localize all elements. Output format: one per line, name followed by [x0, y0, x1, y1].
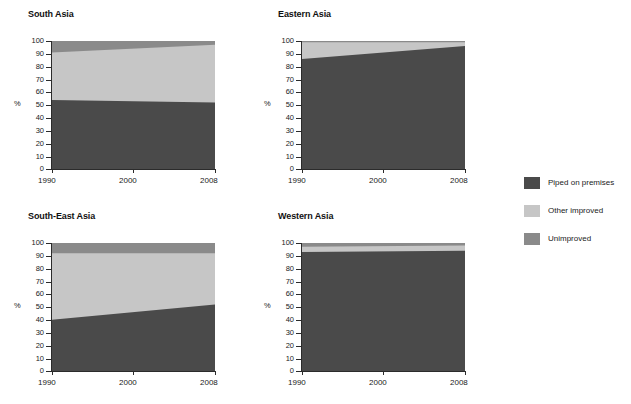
y-tick-south-asia	[46, 67, 51, 68]
y-tick-western-asia	[296, 256, 301, 257]
y-tick-label-western-asia: 90	[254, 251, 294, 260]
x-tick-western-asia	[302, 372, 303, 375]
stacked-area-plot-eastern-asia	[302, 41, 465, 169]
y-tick-label-western-asia: 60	[254, 289, 294, 298]
y-tick-label-south-asia: 10	[4, 152, 44, 161]
y-tick-south-asia	[46, 131, 51, 132]
y-tick-label-western-asia: 50	[254, 302, 294, 311]
y-tick-eastern-asia	[296, 92, 301, 93]
y-tick-south-asia	[46, 92, 51, 93]
y-tick-label-south-asia: 80	[4, 62, 44, 71]
x-tick-eastern-asia	[383, 170, 384, 173]
y-tick-eastern-asia	[296, 131, 301, 132]
y-tick-label-eastern-asia: 30	[254, 126, 294, 135]
legend-swatch-other-improved	[524, 205, 540, 217]
plot-area-south-east-asia	[52, 243, 215, 371]
y-axis-line-eastern-asia	[301, 41, 302, 170]
x-tick-eastern-asia	[465, 170, 466, 173]
y-tick-label-western-asia: 100	[254, 238, 294, 247]
x-tick-south-asia	[133, 170, 134, 173]
y-tick-south-east-asia	[46, 346, 51, 347]
y-tick-south-asia	[46, 157, 51, 158]
y-tick-label-south-asia: 100	[4, 36, 44, 45]
x-tick-label-eastern-asia: 2008	[450, 176, 468, 185]
x-tick-south-asia	[52, 170, 53, 173]
y-tick-south-east-asia	[46, 320, 51, 321]
y-tick-label-south-east-asia: 0	[4, 366, 44, 375]
stacked-area-plot-south-asia	[52, 41, 215, 169]
y-tick-label-south-asia: 90	[4, 49, 44, 58]
panel-title-south-asia: South Asia	[28, 9, 74, 19]
y-tick-label-south-east-asia: 90	[4, 251, 44, 260]
x-tick-label-south-east-asia: 1990	[38, 378, 56, 387]
stacked-area-plot-south-east-asia	[52, 243, 215, 371]
y-tick-south-asia	[46, 169, 51, 170]
legend-label-unimproved: Unimproved	[548, 233, 591, 245]
y-tick-south-asia	[46, 144, 51, 145]
y-tick-label-south-asia: 40	[4, 113, 44, 122]
y-tick-south-east-asia	[46, 269, 51, 270]
multi-panel-area-chart-figure: South Asia % 100 90 80 70 60 5	[0, 0, 631, 404]
y-tick-eastern-asia	[296, 105, 301, 106]
y-tick-label-south-east-asia: 40	[4, 315, 44, 324]
y-tick-label-eastern-asia: 90	[254, 49, 294, 58]
y-tick-label-south-east-asia: 80	[4, 264, 44, 273]
y-tick-south-asia	[46, 105, 51, 106]
area-series-svg-south-asia	[52, 41, 215, 169]
y-tick-label-eastern-asia: 70	[254, 75, 294, 84]
area-series-svg-eastern-asia	[302, 41, 465, 169]
y-tick-western-asia	[296, 359, 301, 360]
y-tick-label-south-asia: 60	[4, 87, 44, 96]
y-tick-eastern-asia	[296, 169, 301, 170]
y-tick-south-asia	[46, 41, 51, 42]
y-tick-western-asia	[296, 243, 301, 244]
y-tick-label-eastern-asia: 0	[254, 164, 294, 173]
y-tick-label-western-asia: 80	[254, 264, 294, 273]
y-tick-south-east-asia	[46, 359, 51, 360]
plot-area-eastern-asia	[302, 41, 465, 169]
y-tick-label-eastern-asia: 10	[254, 152, 294, 161]
x-tick-label-south-asia: 2000	[119, 176, 137, 185]
y-axis-line-south-asia	[51, 41, 52, 170]
y-tick-label-south-asia: 0	[4, 164, 44, 173]
y-tick-eastern-asia	[296, 144, 301, 145]
y-tick-label-eastern-asia: 60	[254, 87, 294, 96]
y-tick-label-eastern-asia: 50	[254, 100, 294, 109]
y-tick-western-asia	[296, 346, 301, 347]
x-tick-western-asia	[383, 372, 384, 375]
x-tick-western-asia	[465, 372, 466, 375]
y-tick-label-south-asia: 30	[4, 126, 44, 135]
y-tick-label-western-asia: 40	[254, 315, 294, 324]
legend-item-piped-on-premises: Piped on premises	[524, 175, 631, 203]
y-tick-label-western-asia: 70	[254, 277, 294, 286]
y-tick-eastern-asia	[296, 118, 301, 119]
y-tick-label-south-east-asia: 60	[4, 289, 44, 298]
y-tick-south-asia	[46, 54, 51, 55]
x-tick-label-south-asia: 1990	[38, 176, 56, 185]
y-tick-western-asia	[296, 294, 301, 295]
y-tick-south-asia	[46, 80, 51, 81]
x-tick-south-asia	[215, 170, 216, 173]
y-tick-label-western-asia: 30	[254, 328, 294, 337]
x-tick-label-western-asia: 2000	[369, 378, 387, 387]
y-tick-label-western-asia: 10	[254, 354, 294, 363]
y-tick-label-south-east-asia: 50	[4, 302, 44, 311]
legend-item-unimproved: Unimproved	[524, 231, 631, 259]
area-piped-on-premises-south-asia	[52, 100, 215, 169]
x-tick-eastern-asia	[302, 170, 303, 173]
plot-area-south-asia	[52, 41, 215, 169]
stacked-area-plot-western-asia	[302, 243, 465, 371]
x-tick-label-western-asia: 2008	[450, 378, 468, 387]
y-tick-eastern-asia	[296, 41, 301, 42]
x-tick-label-eastern-asia: 1990	[288, 176, 306, 185]
y-tick-eastern-asia	[296, 54, 301, 55]
y-tick-label-south-asia: 50	[4, 100, 44, 109]
legend-item-other-improved: Other improved	[524, 203, 631, 231]
x-tick-south-east-asia	[215, 372, 216, 375]
y-tick-south-asia	[46, 118, 51, 119]
legend-label-other-improved: Other improved	[548, 205, 603, 217]
x-tick-label-south-east-asia: 2008	[200, 378, 218, 387]
x-tick-label-eastern-asia: 2000	[369, 176, 387, 185]
y-tick-south-east-asia	[46, 371, 51, 372]
panel-title-western-asia: Western Asia	[278, 211, 333, 221]
